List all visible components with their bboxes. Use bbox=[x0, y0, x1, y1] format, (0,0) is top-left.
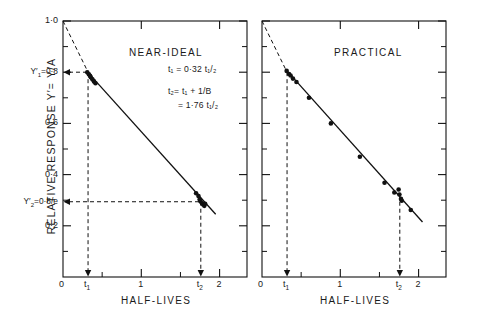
equation-1: t₁ = 0·32 t₁/₂ bbox=[168, 64, 216, 74]
data-point bbox=[397, 192, 402, 197]
panel-frame-practical bbox=[262, 21, 446, 277]
data-point bbox=[396, 187, 401, 192]
equation-2: t₂= t₁ + 1/B bbox=[168, 86, 212, 96]
data-point bbox=[203, 201, 208, 206]
data-point bbox=[358, 154, 363, 159]
t2-arrow-icon bbox=[397, 270, 403, 277]
x-axis-label-near-ideal: HALF-LIVES bbox=[121, 295, 191, 306]
x-axis-label-practical: HALF-LIVES bbox=[320, 295, 390, 306]
x-tick-label-t1: t1 bbox=[283, 279, 289, 291]
y1-arrow-icon bbox=[64, 69, 71, 75]
x-tick-label-1: 1 bbox=[337, 279, 342, 289]
y-tick-label-1·0: 1·0 bbox=[30, 15, 58, 25]
data-point bbox=[392, 190, 397, 195]
figure-canvas bbox=[0, 0, 482, 317]
panel-frame-near-ideal bbox=[63, 21, 247, 277]
y-label-y1: Y′1=0·8 bbox=[8, 66, 58, 78]
t1-arrow-icon bbox=[284, 270, 290, 277]
panel-title-near-ideal: NEAR-IDEAL bbox=[129, 47, 203, 58]
y2-arrow-icon bbox=[64, 199, 71, 205]
y-tick-label-0·4: 0·4 bbox=[30, 169, 58, 179]
x-tick-label-t1: t1 bbox=[84, 279, 90, 291]
data-point bbox=[382, 180, 387, 185]
y-axis-label: RELATIVE RESPONSE Y′= Y/A bbox=[45, 26, 57, 266]
data-point bbox=[291, 76, 296, 81]
x-tick-label-0: 0 bbox=[258, 279, 263, 289]
y-label-y2: Y′2=0·8/e bbox=[3, 196, 58, 208]
data-point bbox=[93, 81, 98, 86]
data-point bbox=[307, 96, 312, 101]
x-tick-label-1: 1 bbox=[138, 279, 143, 289]
figure-root: RELATIVE RESPONSE Y′= Y/A NEAR-IDEALHALF… bbox=[0, 0, 482, 317]
data-point bbox=[329, 121, 334, 126]
x-tick-label-t2: t2 bbox=[197, 279, 203, 291]
y-tick-label-0·2: 0·2 bbox=[30, 220, 58, 230]
data-point bbox=[408, 208, 413, 213]
x-tick-label-2: 2 bbox=[217, 279, 222, 289]
t1-arrow-icon bbox=[85, 270, 91, 277]
panel-title-practical: PRACTICAL bbox=[334, 47, 403, 58]
data-point bbox=[399, 198, 404, 203]
data-point bbox=[294, 80, 299, 85]
t2-arrow-icon bbox=[198, 270, 204, 277]
equation-3: = 1·76 t₁/₂ bbox=[178, 100, 218, 110]
x-tick-label-t2: t2 bbox=[396, 279, 402, 291]
x-tick-label-2: 2 bbox=[416, 279, 421, 289]
y-tick-label-0·6: 0·6 bbox=[30, 117, 58, 127]
x-tick-label-0: 0 bbox=[59, 279, 64, 289]
